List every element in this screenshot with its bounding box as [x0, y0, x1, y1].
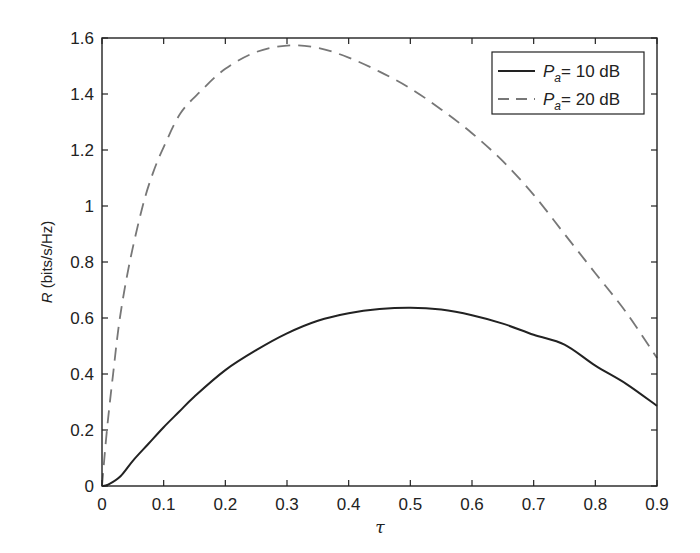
y-axis-label-var: R	[38, 292, 55, 303]
y-axis-label: R (bits/s/Hz)	[38, 221, 55, 304]
series-line-1	[102, 308, 657, 486]
y-tick-label: 0.2	[70, 421, 94, 440]
y-tick-label: 0.8	[70, 253, 94, 272]
x-tick-label: 0.9	[645, 495, 669, 514]
x-tick-label: 0	[97, 495, 106, 514]
x-tick-label: 0.5	[399, 495, 423, 514]
x-tick-label: 0.2	[214, 495, 238, 514]
x-tick-label: 0.4	[337, 495, 361, 514]
y-tick-label: 1	[85, 197, 94, 216]
line-chart: 00.10.20.30.40.50.60.70.80.900.20.40.60.…	[0, 0, 700, 553]
y-tick-label: 0.4	[70, 365, 94, 384]
y-tick-label: 0.6	[70, 309, 94, 328]
x-tick-label: 0.3	[275, 495, 299, 514]
y-tick-label: 1.6	[70, 29, 94, 48]
y-tick-label: 1.4	[70, 85, 94, 104]
y-tick-label: 1.2	[70, 141, 94, 160]
y-axis-label-unit: (bits/s/Hz)	[38, 221, 55, 293]
x-tick-label: 0.8	[584, 495, 608, 514]
x-axis-label: τ	[375, 517, 385, 537]
y-tick-label: 0	[85, 477, 94, 496]
x-tick-label: 0.1	[152, 495, 176, 514]
x-tick-label: 0.6	[460, 495, 484, 514]
x-tick-label: 0.7	[522, 495, 546, 514]
legend: Pa= 10 dB Pa= 20 dB	[492, 52, 644, 114]
